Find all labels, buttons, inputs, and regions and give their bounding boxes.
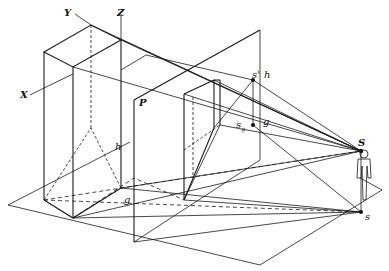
- point-sg: [251, 123, 255, 127]
- label-s-prime: s': [252, 70, 260, 80]
- ground-plane-back-edge: [8, 142, 130, 205]
- label-horizon-right: h: [264, 70, 270, 80]
- label-y-axis: Y: [64, 8, 71, 18]
- label-horizon-left: h: [115, 142, 121, 152]
- label-foot-point: s: [365, 212, 370, 222]
- label-x-axis: X: [20, 90, 28, 100]
- box-top-face: [44, 25, 121, 67]
- picture-plane-top-edge: [134, 30, 260, 100]
- label-z-axis: Z: [117, 8, 124, 18]
- perspective-diagram: Y Z X P h g s' h sg g S s: [0, 0, 389, 271]
- observer-figure: [357, 150, 371, 200]
- label-eye-point: S: [358, 138, 365, 148]
- label-sg-sub: g: [241, 125, 245, 132]
- label-sg: sg: [236, 120, 245, 134]
- ground-plane-front-edge: [260, 190, 382, 265]
- diagram-lines: [0, 0, 389, 271]
- foot-point-s: [359, 210, 363, 214]
- label-ground-right: g: [263, 117, 269, 127]
- label-ground-line: g: [124, 195, 130, 205]
- ground-plane-right-edge: [360, 178, 382, 190]
- label-picture-plane: P: [139, 98, 147, 108]
